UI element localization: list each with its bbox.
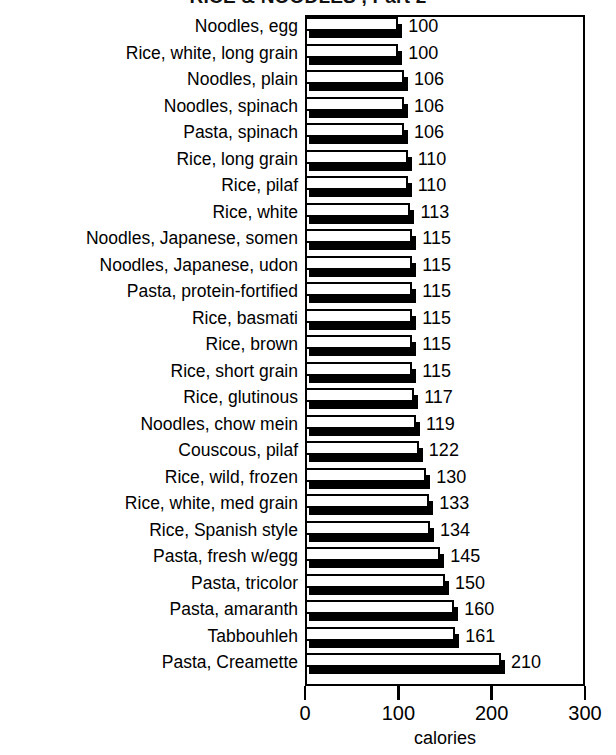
bar-row: Pasta, Creamette210	[0, 651, 616, 678]
bar-category-label: Rice, Spanish style	[149, 520, 298, 540]
bar-value-label: 115	[422, 334, 451, 354]
bar-face	[305, 256, 412, 270]
x-axis: calories 0100200300	[0, 686, 616, 755]
bar-face	[305, 282, 412, 296]
bar-row: Noodles, Japanese, somen115	[0, 227, 616, 254]
bar	[305, 309, 417, 331]
bar-category-label: Pasta, protein-fortified	[127, 281, 298, 301]
bar	[305, 521, 435, 543]
bar-face	[305, 521, 430, 535]
bar-row: Rice, short grain115	[0, 360, 616, 387]
bar-value-label: 113	[420, 202, 449, 222]
bar	[305, 547, 445, 569]
bar-category-label: Pasta, amaranth	[170, 599, 298, 619]
bar-category-label: Pasta, Creamette	[162, 652, 298, 672]
bar-row: Noodles, spinach106	[0, 95, 616, 122]
bar-face	[305, 44, 398, 58]
bar-value-label: 110	[418, 175, 447, 195]
bar-face	[305, 229, 412, 243]
bar-category-label: Rice, long grain	[176, 149, 298, 169]
bar-category-label: Rice, white, med grain	[125, 493, 298, 513]
bar-value-label: 160	[464, 599, 494, 619]
bar-category-label: Rice, brown	[206, 334, 298, 354]
bar-row: Couscous, pilaf122	[0, 439, 616, 466]
bar	[305, 229, 417, 251]
bar-face	[305, 547, 440, 561]
bar-value-label: 106	[414, 122, 444, 142]
bar-row: Rice, white, med grain133	[0, 492, 616, 519]
bar-face	[305, 17, 398, 31]
bar-row: Noodles, chow mein119	[0, 413, 616, 440]
bar	[305, 468, 431, 490]
bar-category-label: Tabbouhleh	[208, 626, 299, 646]
bar-row: Rice, wild, frozen130	[0, 466, 616, 493]
bar-value-label: 110	[418, 149, 447, 169]
bar-face	[305, 468, 426, 482]
bar-rows-container: Noodles, egg100Rice, white, long grain10…	[0, 15, 616, 686]
bar-category-label: Pasta, spinach	[183, 122, 298, 142]
bar-value-label: 100	[408, 16, 438, 36]
bar	[305, 203, 415, 225]
bar	[305, 44, 403, 66]
bar-row: Noodles, egg100	[0, 15, 616, 42]
bar-category-label: Pasta, fresh w/egg	[153, 546, 298, 566]
bar-category-label: Noodles, chow mein	[140, 414, 298, 434]
bar-row: Rice, white, long grain100	[0, 42, 616, 69]
bar-face	[305, 70, 404, 84]
bar	[305, 335, 417, 357]
bar	[305, 441, 424, 463]
bar-category-label: Rice, short grain	[171, 361, 298, 381]
bar-face	[305, 203, 410, 217]
bar	[305, 627, 460, 649]
bar	[305, 256, 417, 278]
bar	[305, 70, 409, 92]
bar	[305, 97, 409, 119]
bar	[305, 362, 417, 384]
bar-value-label: 145	[450, 546, 480, 566]
bar-row: Rice, pilaf110	[0, 174, 616, 201]
bar-face	[305, 335, 412, 349]
bar-face	[305, 574, 445, 588]
bar-row: Pasta, amaranth160	[0, 598, 616, 625]
chart-title: RICE & NOODLES , Part 2	[0, 0, 616, 8]
x-axis-tick	[490, 686, 493, 700]
bar-category-label: Rice, wild, frozen	[165, 467, 298, 487]
bar-face	[305, 415, 416, 429]
bar-face	[305, 176, 408, 190]
bar-row: Rice, white113	[0, 201, 616, 228]
bar-value-label: 106	[414, 96, 444, 116]
bar-category-label: Rice, pilaf	[221, 175, 298, 195]
bar-chart: RICE & NOODLES , Part 2 Noodles, egg100R…	[0, 0, 616, 755]
x-axis-tick-label: 0	[270, 701, 340, 725]
bar-value-label: 119	[426, 414, 455, 434]
bar-row: Rice, Spanish style134	[0, 519, 616, 546]
bar-value-label: 150	[455, 573, 485, 593]
bar	[305, 574, 450, 596]
bar-value-label: 115	[422, 228, 451, 248]
bar-value-label: 134	[440, 520, 470, 540]
bar	[305, 388, 419, 410]
bar-value-label: 161	[465, 626, 495, 646]
bar-face	[305, 150, 408, 164]
x-axis-tick	[397, 686, 400, 700]
bar-category-label: Rice, glutinous	[183, 387, 298, 407]
bar-face	[305, 600, 454, 614]
bar-category-label: Pasta, tricolor	[191, 573, 298, 593]
x-axis-tick	[304, 686, 307, 700]
x-axis-tick-label: 200	[457, 701, 527, 725]
bar-category-label: Couscous, pilaf	[178, 440, 298, 460]
bar	[305, 123, 409, 145]
bar-row: Noodles, plain106	[0, 68, 616, 95]
bar	[305, 653, 506, 675]
bar-face	[305, 441, 419, 455]
bar	[305, 150, 413, 172]
bar-value-label: 130	[436, 467, 466, 487]
x-axis-tick-label: 100	[363, 701, 433, 725]
bar-category-label: Noodles, egg	[195, 16, 298, 36]
bar-face	[305, 97, 404, 111]
bar	[305, 282, 417, 304]
bar-value-label: 115	[422, 255, 451, 275]
bar-row: Pasta, tricolor150	[0, 572, 616, 599]
bar-face	[305, 653, 501, 667]
x-axis-title: calories	[305, 728, 585, 749]
